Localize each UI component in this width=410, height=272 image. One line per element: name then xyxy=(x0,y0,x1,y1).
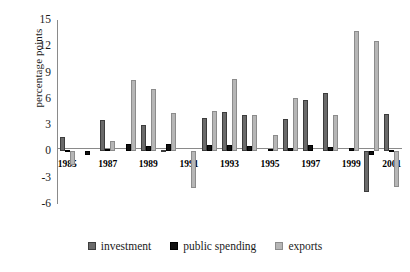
bar xyxy=(283,119,288,151)
y-tick-label: 12 xyxy=(40,41,52,53)
x-tick-label: 1997 xyxy=(301,160,320,170)
legend-swatch-icon xyxy=(275,242,283,250)
bar xyxy=(232,79,237,152)
y-axis-line xyxy=(57,20,58,204)
y-tick-label: 0 xyxy=(45,146,51,158)
x-tick-label: 1993 xyxy=(220,160,239,170)
bar xyxy=(212,111,217,151)
bar xyxy=(110,141,115,152)
x-tick-label: 1995 xyxy=(261,160,280,170)
y-tick-label: 6 xyxy=(45,93,51,105)
bar xyxy=(384,114,389,152)
bar xyxy=(131,80,136,152)
y-tick-label: 3 xyxy=(45,119,51,131)
bar xyxy=(252,115,257,152)
y-tick-label: -6 xyxy=(41,198,51,210)
bar xyxy=(70,151,75,164)
bar xyxy=(191,151,196,188)
bar xyxy=(100,120,105,152)
legend-label: public spending xyxy=(183,240,256,252)
bar xyxy=(364,151,369,191)
bar xyxy=(374,41,379,151)
bar xyxy=(151,89,156,151)
y-tick-label: 9 xyxy=(45,67,51,79)
y-tick-label: 15 xyxy=(40,14,52,26)
legend-label: investment xyxy=(101,240,151,252)
legend-label: exports xyxy=(288,240,322,252)
x-tick-label: 1999 xyxy=(342,160,361,170)
y-tick-label: -3 xyxy=(41,172,51,184)
legend-item: investment xyxy=(88,240,151,252)
bar xyxy=(303,100,308,152)
bar xyxy=(273,135,278,152)
legend-item: public spending xyxy=(170,240,256,252)
x-tick-label: 1989 xyxy=(139,160,158,170)
chart-legend: investmentpublic spendingexports xyxy=(0,240,410,252)
bar xyxy=(333,115,338,152)
bar-chart-figure: percentage points 15129630-3-6 198519871… xyxy=(0,0,410,272)
bar xyxy=(293,98,298,151)
bar xyxy=(394,151,399,187)
legend-swatch-icon xyxy=(170,242,178,250)
bar xyxy=(308,145,313,151)
legend-swatch-icon xyxy=(88,242,96,250)
x-tick-label: 1987 xyxy=(98,160,117,170)
bar xyxy=(354,31,359,151)
bar xyxy=(369,151,374,155)
bar xyxy=(323,93,328,152)
legend-item: exports xyxy=(275,240,322,252)
plot-area: 15129630-3-6 198519871989199119931995199… xyxy=(57,20,402,204)
bar xyxy=(171,113,176,152)
bar xyxy=(85,151,90,155)
